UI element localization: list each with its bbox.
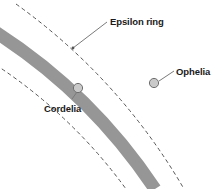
epsilon-ring-label: Epsilon ring <box>110 16 164 27</box>
ring-diagram-canvas: Epsilon ring Ophelia Cordelia <box>0 0 220 189</box>
epsilon-ring-leader-line <box>73 22 107 48</box>
ophelia-label: Ophelia <box>176 66 211 77</box>
epsilon-ring-leader-dot <box>72 47 75 50</box>
ophelia-leader-line <box>159 71 174 81</box>
uranus-ring-diagram: Epsilon ring Ophelia Cordelia <box>0 0 220 189</box>
ophelia-moon-icon <box>149 78 158 87</box>
cordelia-moon-icon <box>73 83 82 92</box>
cordelia-label: Cordelia <box>44 103 82 114</box>
ophelia-orbit-arc <box>16 4 184 189</box>
